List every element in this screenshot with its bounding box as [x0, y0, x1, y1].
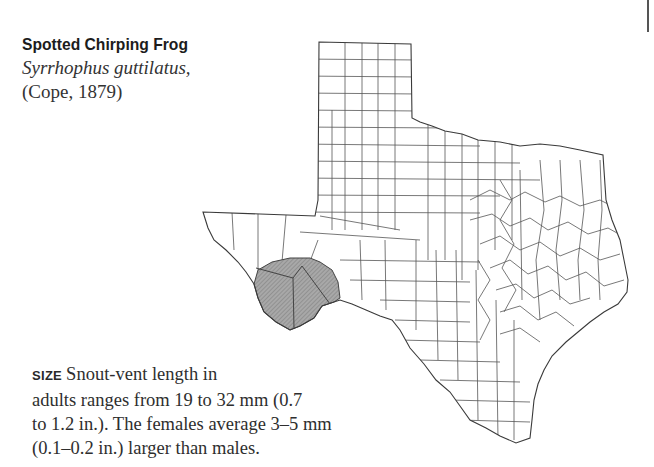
- size-line-2: adults ranges from 19 to 32 mm (0.7: [32, 390, 302, 410]
- size-label: SIZE: [32, 368, 62, 383]
- size-line-4: (0.1–0.2 in.) larger than males.: [32, 438, 260, 458]
- size-description: SIZESnout-vent length in adults ranges f…: [32, 362, 362, 460]
- size-line-3: to 1.2 in.). The females average 3–5 mm: [32, 414, 332, 434]
- size-line-1: Snout-vent length in: [66, 364, 217, 384]
- range-shaded-area: [254, 258, 340, 330]
